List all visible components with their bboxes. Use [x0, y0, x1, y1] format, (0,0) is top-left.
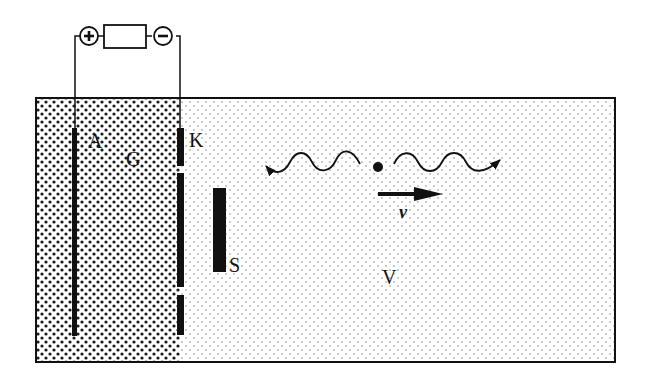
label-vacuum: V — [382, 266, 397, 288]
label-velocity: v — [399, 202, 408, 222]
power-supply — [80, 25, 172, 48]
cathode-electrode — [177, 128, 184, 335]
label-screen: S — [229, 254, 240, 276]
label-cathode: K — [189, 129, 204, 151]
label-anode: A — [88, 130, 103, 152]
negative-terminal-icon — [154, 27, 172, 45]
gas-region — [36, 98, 180, 362]
particle-dot — [373, 162, 383, 172]
positive-terminal-icon — [80, 27, 98, 45]
vacuum-region — [180, 98, 615, 362]
label-gas-region: G — [126, 148, 140, 170]
anode-electrode — [72, 128, 77, 336]
power-supply-box — [104, 25, 146, 48]
screen-plate — [213, 188, 226, 272]
diagram-canvas: A G K S V v — [0, 0, 645, 384]
